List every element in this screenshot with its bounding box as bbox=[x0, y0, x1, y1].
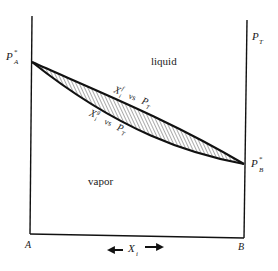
liquid-region-label: liquid bbox=[151, 55, 177, 67]
svg-text:T: T bbox=[259, 38, 264, 46]
right-arrow-icon bbox=[145, 245, 162, 250]
svg-text:B: B bbox=[259, 166, 264, 174]
pt-axis-label: P T bbox=[251, 30, 264, 46]
pb-star-label: P * B bbox=[250, 155, 264, 174]
two-phase-region bbox=[32, 62, 244, 164]
mole-fraction-axis-label: X i bbox=[109, 242, 162, 258]
vapor-region-label: vapor bbox=[88, 175, 113, 187]
component-a-label: A bbox=[24, 239, 32, 250]
svg-text:T: T bbox=[120, 130, 126, 137]
svg-text:i: i bbox=[136, 250, 138, 258]
svg-text:*: * bbox=[259, 155, 263, 163]
svg-text:*: * bbox=[14, 48, 18, 56]
svg-text:P: P bbox=[251, 30, 259, 42]
vapor-liquid-equilibrium-diagram: P * A P T P * B liquid vapor X f i vs P … bbox=[0, 0, 278, 271]
svg-text:X: X bbox=[127, 242, 136, 254]
svg-text:A: A bbox=[13, 58, 19, 66]
svg-text:vs: vs bbox=[127, 92, 137, 103]
left-arrow-icon bbox=[109, 248, 123, 253]
right-axis bbox=[244, 20, 247, 238]
svg-text:P: P bbox=[250, 157, 258, 169]
component-b-label: B bbox=[238, 241, 244, 252]
left-axis bbox=[30, 16, 32, 234]
svg-text:vs: vs bbox=[103, 117, 113, 128]
svg-text:P: P bbox=[5, 50, 13, 62]
pa-star-label: P * A bbox=[5, 48, 19, 66]
bottom-axis bbox=[30, 234, 244, 238]
svg-text:T: T bbox=[145, 104, 151, 111]
